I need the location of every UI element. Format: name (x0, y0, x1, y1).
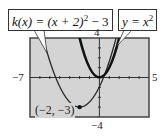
ymax-label: 4 (94, 26, 100, 38)
vertex-label: (−2, −3) (35, 103, 75, 118)
callout-y-text: y = x (122, 14, 149, 29)
callout-y: y = x2 (118, 9, 157, 31)
vertex-point (77, 105, 81, 109)
xmax-label: 5 (152, 71, 158, 83)
xmin-label: −7 (12, 71, 24, 83)
callout-y-exponent: 2 (149, 13, 154, 23)
ymin-label: −4 (91, 119, 103, 131)
callout-k-text: k(x) = (x + 2) (12, 14, 84, 29)
